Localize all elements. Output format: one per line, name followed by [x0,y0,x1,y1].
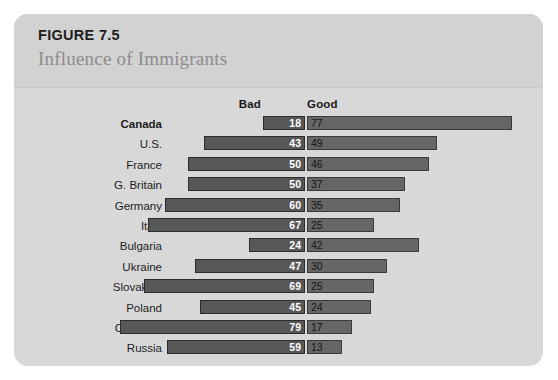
bar-bad-value: 50 [189,158,301,170]
bar-good-value: 35 [311,199,399,211]
chart-row: Russia5913 [14,338,543,358]
bar-good: 42 [307,238,419,252]
bar-good: 35 [307,198,400,212]
row-label-germany: Germany [14,196,162,216]
axis-header-good: Good [307,97,338,111]
chart-row: Bulgaria2442 [14,236,543,256]
bar-good: 13 [307,340,342,354]
bar-bad-value: 67 [149,219,301,231]
chart-row: Poland4524 [14,298,543,318]
bar-good: 49 [307,136,437,150]
bar-bad: 47 [195,259,305,273]
row-label-poland: Poland [14,298,162,318]
chart-rows: Canada1877U.S.4349France5046G. Britain50… [14,114,543,359]
chart-row: U.S.4349 [14,134,543,154]
bar-bad-value: 43 [205,137,301,149]
chart-row: Ukraine4730 [14,257,543,277]
bar-good-value: 42 [311,239,418,251]
axis-header-bad: Bad [239,97,261,111]
bar-good-value: 49 [311,137,436,149]
bar-bad: 50 [188,177,305,191]
bar-bad-value: 47 [196,260,301,272]
bar-bad: 43 [204,136,305,150]
row-label-ukraine: Ukraine [14,257,162,277]
figure-header: FIGURE 7.5 Influence of Immigrants [14,14,543,88]
bar-bad-value: 45 [201,301,301,313]
row-label-g-britain: G. Britain [14,175,162,195]
bar-good: 17 [307,320,352,334]
chart-row: France5046 [14,155,543,175]
axis-header-row: Bad Good [14,97,543,113]
row-label-canada: Canada [14,114,162,134]
bar-bad: 50 [188,157,305,171]
bar-good-value: 17 [311,321,351,333]
figure-card: FIGURE 7.5 Influence of Immigrants Bad G… [14,14,543,366]
bar-bad: 24 [249,238,305,252]
bar-good-value: 46 [311,158,428,170]
bar-good-value: 37 [311,178,404,190]
chart-row: Canada1877 [14,114,543,134]
chart-row: Czech R.7917 [14,318,543,338]
bar-good: 37 [307,177,405,191]
row-label-france: France [14,155,162,175]
row-label-italy: Italy [14,216,162,236]
bar-bad-value: 24 [250,239,301,251]
bar-bad-value: 59 [168,341,301,353]
bar-good-value: 24 [311,301,370,313]
bar-good-value: 30 [311,260,386,272]
bar-bad: 18 [263,116,305,130]
bar-bad-value: 50 [189,178,301,190]
row-label-slovak-r: Slovak R. [14,277,162,297]
bar-good: 30 [307,259,387,273]
bar-bad-value: 18 [264,117,301,129]
bar-bad: 69 [144,279,305,293]
row-label-russia: Russia [14,338,162,358]
row-label-u-s: U.S. [14,134,162,154]
chart-row: Germany6035 [14,196,543,216]
chart-row: Slovak R.6925 [14,277,543,297]
figure-title: Influence of Immigrants [38,47,543,71]
bar-good-value: 77 [311,117,511,129]
bar-bad-value: 60 [166,199,301,211]
figure-number: FIGURE 7.5 [38,27,543,44]
bar-bad: 45 [200,300,305,314]
row-label-bulgaria: Bulgaria [14,236,162,256]
bar-good: 25 [307,218,374,232]
bar-good: 77 [307,116,512,130]
bar-bad: 67 [148,218,305,232]
chart-row: G. Britain5037 [14,175,543,195]
bar-bad-value: 69 [145,280,301,292]
bar-good: 25 [307,279,374,293]
bar-good-value: 25 [311,219,373,231]
chart-row: Italy6725 [14,216,543,236]
chart-plot-area: Bad Good Canada1877U.S.4349France5046G. … [14,88,543,366]
bar-good-value: 13 [311,341,341,353]
bar-good-value: 25 [311,280,373,292]
bar-good: 24 [307,300,371,314]
bar-bad: 59 [167,340,305,354]
bar-bad: 60 [165,198,305,212]
bar-bad-value: 79 [121,321,301,333]
bar-good: 46 [307,157,429,171]
bar-bad: 79 [120,320,305,334]
